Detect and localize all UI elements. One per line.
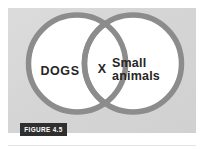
venn-label-intersection: X xyxy=(92,63,112,76)
figure-container: DOGS X Small animals FIGURE 4.5 xyxy=(0,0,210,149)
venn-label-right: Small animals xyxy=(112,57,174,83)
figure-caption-badge: FIGURE 4.5 xyxy=(20,123,67,136)
bottom-divider xyxy=(8,145,196,146)
venn-diagram: DOGS X Small animals xyxy=(8,8,196,133)
figure-panel: DOGS X Small animals FIGURE 4.5 xyxy=(8,8,196,133)
venn-label-left: DOGS xyxy=(26,65,94,78)
